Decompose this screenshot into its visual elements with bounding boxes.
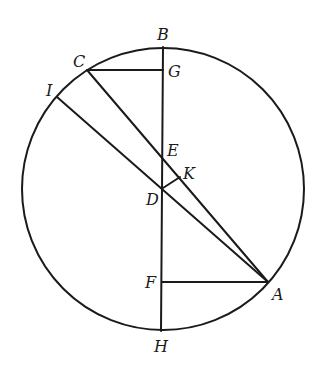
- geometry-diagram: A B C D E F G H I K: [0, 0, 322, 376]
- label-f: F: [144, 273, 157, 292]
- segments: [57, 47, 268, 331]
- label-e: E: [166, 141, 179, 160]
- label-a: A: [270, 285, 284, 304]
- label-i: I: [45, 81, 53, 100]
- segment-dk: [163, 177, 180, 188]
- label-c: C: [73, 52, 85, 71]
- label-d: D: [145, 190, 159, 209]
- segment-ca: [87, 70, 268, 282]
- label-g: G: [168, 62, 181, 81]
- label-h: H: [153, 337, 169, 356]
- label-b: B: [156, 25, 169, 44]
- label-k: K: [182, 164, 196, 183]
